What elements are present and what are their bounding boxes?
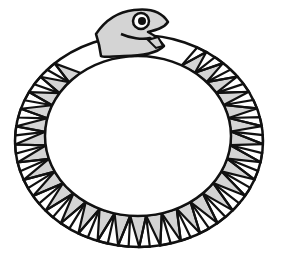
ouroboros-drawing: [0, 0, 282, 261]
ouroboros-figure: [0, 0, 282, 261]
pupil: [138, 17, 146, 25]
snake-head: [96, 10, 168, 57]
body-inner-edge: [45, 56, 231, 216]
head-shape: [96, 10, 168, 57]
snake-body-ring: [15, 35, 263, 247]
